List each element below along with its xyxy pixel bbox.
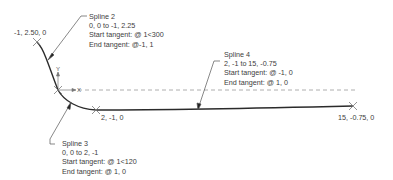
spline-3-curve: [58, 90, 96, 110]
callout-spline-3: Spline 3 0, 0 to 2, -1 Start tangent: @ …: [62, 139, 137, 176]
leader-spline-2: [48, 16, 87, 60]
spline-2-curve: [37, 42, 58, 90]
spline-drawing: Y X: [0, 0, 393, 180]
y-axis-label: Y: [56, 66, 60, 72]
x-axis-label: X: [77, 87, 81, 93]
point-marker-start: [33, 38, 41, 46]
callout-spline-4: Spline 4 2, -1 to 15, -0.75 Start tangen…: [224, 50, 293, 87]
leader-spline-4: [197, 61, 220, 110]
point-label-mid: 2, -1, 0: [101, 113, 123, 122]
leader-spline-3: [50, 102, 71, 144]
point-label-start: -1, 2.50, 0: [14, 28, 46, 37]
callout-range: 0, 0 to 2, -1: [62, 148, 137, 157]
callout-end-tangent: End tangent: @-1, 1: [89, 40, 164, 49]
spline-4-curve: [96, 106, 353, 110]
callout-start-tangent: Start tangent: @ -1, 0: [224, 68, 293, 77]
callout-end-tangent: End tangent: @ 1, 0: [62, 167, 137, 176]
callout-end-tangent: End tangent: @ 1, 0: [224, 78, 293, 87]
callout-start-tangent: Start tangent: @ 1<120: [62, 157, 137, 166]
callout-title: Spline 2: [89, 12, 164, 21]
callout-title: Spline 3: [62, 139, 137, 148]
callout-spline-2: Spline 2 0, 0 to -1, 2.25 Start tangent:…: [89, 12, 164, 49]
callout-range: 2, -1 to 15, -0.75: [224, 59, 293, 68]
callout-title: Spline 4: [224, 50, 293, 59]
callout-range: 0, 0 to -1, 2.25: [89, 21, 164, 30]
callout-start-tangent: Start tangent: @ 1<300: [89, 30, 164, 39]
point-label-end: 15, -0.75, 0: [338, 113, 374, 122]
